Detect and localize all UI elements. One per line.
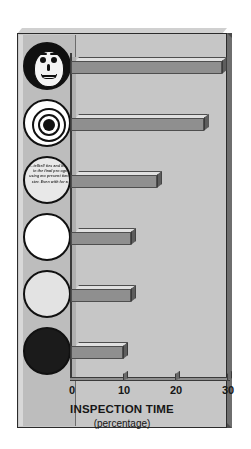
axis-tick-label-30: 30 [216,384,240,396]
bar-text-circle-icon [71,171,157,188]
bar-gray-circle-icon [71,285,131,302]
axis-tick-label-10: 10 [112,384,136,396]
bar-series [19,35,225,426]
axis-tick-label-20: 20 [164,384,188,396]
x-axis-label: INSPECTION TIME [19,403,225,415]
bar-black-circle-icon [71,342,123,359]
bar-front-face [71,61,222,74]
figure-canvas: ...telltell ties and knowle up in the fi… [0,0,251,449]
bar-front-face [71,232,131,245]
bar-face-icon [71,57,222,74]
category-axis-line [70,377,230,381]
frame-right-bevel [227,33,232,428]
bar-white-circle-icon [71,228,131,245]
bar-front-face [71,118,204,131]
bar-front-face [71,346,123,359]
bar-bullseye-icon [71,114,204,131]
plot-area: ...telltell ties and knowle up in the fi… [19,35,225,426]
bar-front-face [71,289,131,302]
axis-tick-label-0: 0 [60,384,84,396]
x-axis-sublabel: (percentage) [19,418,225,429]
bar-front-face [71,175,157,188]
